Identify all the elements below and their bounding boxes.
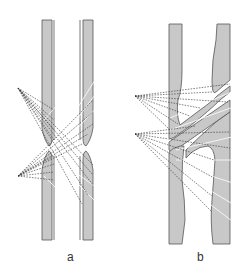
left-strip-upper — [42, 20, 52, 146]
left-strip-lower — [42, 151, 52, 240]
ray-fan-upper-a — [18, 88, 93, 204]
ray-fan-lower-a — [18, 100, 93, 180]
panel-b — [135, 24, 236, 244]
right-strip-upper-b — [212, 24, 230, 93]
right-strip-lower — [83, 151, 93, 240]
panel-a — [18, 20, 100, 240]
panel-label-b: b — [197, 250, 204, 264]
right-strip-upper — [83, 20, 93, 146]
diagram-canvas — [0, 0, 241, 274]
panel-label-a: a — [67, 250, 74, 264]
